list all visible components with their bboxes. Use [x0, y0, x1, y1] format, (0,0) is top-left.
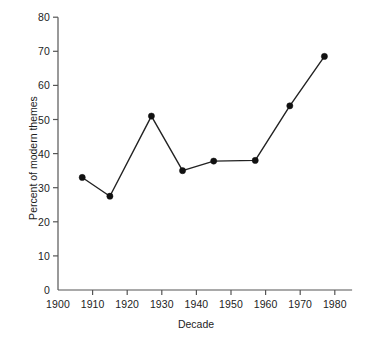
data-point-markers: 1907: 331915: 27.51927: 511936: 351945: …	[79, 53, 327, 199]
tick-marks	[53, 17, 335, 295]
y-tick-label: 70	[18, 45, 50, 57]
line-chart: 1907: 331915: 27.51927: 511936: 351945: …	[0, 0, 392, 337]
data-point-marker: 1936: 35	[179, 168, 185, 174]
y-tick-label: 0	[18, 284, 50, 296]
axes	[58, 17, 352, 290]
x-tick-label: 1950	[219, 298, 243, 310]
x-tick-label: 1960	[254, 298, 278, 310]
data-point-marker: 1977: 68.5	[321, 53, 327, 59]
x-tick-label: 1900	[46, 298, 70, 310]
data-point-marker: 1957: 38	[252, 157, 258, 163]
x-tick-label: 1940	[185, 298, 209, 310]
x-tick-label: 1970	[288, 298, 312, 310]
data-point-marker: 1967: 54	[287, 103, 293, 109]
plot-area: 1907: 331915: 27.51927: 511936: 351945: …	[0, 0, 392, 337]
data-series-line	[82, 56, 324, 196]
x-tick-label: 1980	[323, 298, 347, 310]
y-axis-title: Percent of modern themes	[27, 63, 39, 253]
x-axis-title: Decade	[0, 318, 392, 330]
series-line-percent-of-modern-themes	[82, 56, 324, 196]
data-point-marker: 1945: 37.8	[211, 158, 217, 164]
x-tick-label: 1930	[150, 298, 174, 310]
x-tick-label: 1910	[81, 298, 105, 310]
x-tick-label: 1920	[115, 298, 139, 310]
y-tick-label: 80	[18, 11, 50, 23]
data-point-marker: 1907: 33	[79, 174, 85, 180]
data-point-marker: 1915: 27.5	[107, 193, 113, 199]
data-point-marker: 1927: 51	[148, 113, 154, 119]
